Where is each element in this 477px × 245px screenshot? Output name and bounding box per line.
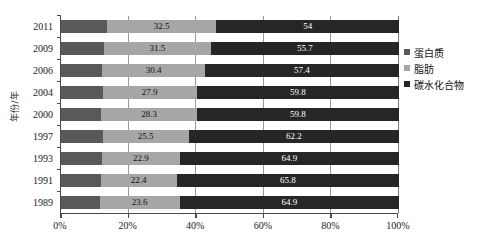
bar-row: 200427.959.8: [61, 86, 398, 99]
y-tick-label: 2009: [3, 42, 53, 55]
x-tick-mark: [195, 214, 197, 218]
y-tick-label: 2004: [3, 86, 53, 99]
bar-row: 199322.964.9: [61, 152, 398, 165]
data-label: 25.5: [138, 130, 154, 143]
x-tick-label: 100%: [378, 220, 418, 231]
bar-segment-carb[interactable]: 55.7: [211, 42, 399, 55]
bar-segment-protein[interactable]: [61, 86, 103, 99]
legend-swatch-icon: [404, 49, 410, 55]
x-tick-mark: [330, 214, 332, 218]
bar-segment-carb[interactable]: 54: [216, 20, 399, 33]
legend-label: 脂肪: [414, 61, 434, 76]
bar-segment-carb[interactable]: 59.8: [197, 108, 399, 121]
bar-segment-fat[interactable]: 25.5: [103, 130, 189, 143]
legend-item[interactable]: 脂肪: [404, 60, 477, 76]
plot-area: 201132.554200931.555.7200630.457.4200427…: [60, 16, 398, 214]
legend-label: 蛋白质: [414, 45, 444, 60]
x-axis: 0%20%40%60%80%100%: [60, 214, 398, 236]
y-tick-label: 1993: [3, 152, 53, 165]
bar-row: 200028.359.8: [61, 108, 398, 121]
data-label: 62.2: [286, 130, 302, 143]
data-label: 30.4: [146, 64, 162, 77]
x-tick-label: 40%: [175, 220, 215, 231]
x-tick-label: 60%: [243, 220, 283, 231]
bar-row: 200931.555.7: [61, 42, 398, 55]
y-tick-label: 1991: [3, 174, 53, 187]
bar-segment-carb[interactable]: 64.9: [180, 196, 399, 209]
data-label: 32.5: [154, 20, 170, 33]
x-tick-mark: [128, 214, 130, 218]
bar-segment-protein[interactable]: [61, 130, 103, 143]
y-tick-mark: [57, 37, 61, 39]
y-tick-mark: [57, 147, 61, 149]
data-label: 31.5: [150, 42, 166, 55]
stacked-bar[interactable]: 25.562.2: [61, 130, 399, 143]
bar-row: 199122.465.8: [61, 174, 398, 187]
stacked-bar[interactable]: 22.964.9: [61, 152, 399, 165]
y-tick-mark: [57, 191, 61, 193]
data-label: 27.9: [142, 86, 158, 99]
x-tick-label: 20%: [108, 220, 148, 231]
y-tick-label: 1989: [3, 196, 53, 209]
stacked-bar[interactable]: 28.359.8: [61, 108, 399, 121]
bar-row: 201132.554: [61, 20, 398, 33]
bar-segment-protein[interactable]: [61, 152, 102, 165]
x-tick-label: 0%: [40, 220, 80, 231]
y-tick-label: 1997: [3, 130, 53, 143]
bar-segment-fat[interactable]: 23.6: [100, 196, 180, 209]
bar-segment-protein[interactable]: [61, 196, 100, 209]
data-label: 64.9: [281, 196, 297, 209]
bar-segment-carb[interactable]: 64.9: [180, 152, 399, 165]
bar-segment-protein[interactable]: [61, 174, 101, 187]
stacked-bar[interactable]: 22.465.8: [61, 174, 399, 187]
stacked-bar[interactable]: 32.554: [61, 20, 399, 33]
bar-segment-protein[interactable]: [61, 64, 102, 77]
bar-row: 198923.664.9: [61, 196, 398, 209]
bar-segment-protein[interactable]: [61, 20, 107, 33]
bar-rows: 201132.554200931.555.7200630.457.4200427…: [61, 16, 398, 213]
chart-legend: 蛋白质脂肪碳水化合物: [404, 44, 477, 92]
bar-segment-fat[interactable]: 28.3: [101, 108, 197, 121]
bar-segment-fat[interactable]: 32.5: [107, 20, 217, 33]
data-label: 57.4: [294, 64, 310, 77]
y-tick-mark: [57, 59, 61, 61]
bar-segment-carb[interactable]: 65.8: [177, 174, 399, 187]
data-label: 59.8: [290, 108, 306, 121]
bar-segment-protein[interactable]: [61, 42, 104, 55]
bar-segment-fat[interactable]: 31.5: [104, 42, 210, 55]
y-tick-label: 2011: [3, 20, 53, 33]
y-tick-mark: [57, 15, 61, 17]
data-label: 23.6: [132, 196, 148, 209]
bar-row: 200630.457.4: [61, 64, 398, 77]
stacked-bar[interactable]: 30.457.4: [61, 64, 399, 77]
stacked-bar[interactable]: 23.664.9: [61, 196, 399, 209]
y-tick-mark: [57, 125, 61, 127]
x-tick-label: 80%: [310, 220, 350, 231]
data-label: 59.8: [290, 86, 306, 99]
data-label: 22.9: [133, 152, 149, 165]
data-label: 28.3: [141, 108, 157, 121]
data-label: 22.4: [131, 174, 147, 187]
bar-segment-fat[interactable]: 30.4: [102, 64, 205, 77]
bar-segment-carb[interactable]: 62.2: [189, 130, 399, 143]
legend-label: 碳水化合物: [414, 77, 464, 92]
legend-item[interactable]: 蛋白质: [404, 44, 477, 60]
stacked-bar[interactable]: 27.959.8: [61, 86, 399, 99]
y-tick-mark: [57, 169, 61, 171]
y-tick-label: 2006: [3, 64, 53, 77]
legend-swatch-icon: [404, 65, 410, 71]
legend-swatch-icon: [404, 81, 410, 87]
bar-segment-carb[interactable]: 57.4: [205, 64, 399, 77]
bar-segment-fat[interactable]: 22.4: [101, 174, 177, 187]
data-label: 65.8: [280, 174, 296, 187]
data-label: 64.9: [281, 152, 297, 165]
x-tick-mark: [397, 214, 399, 218]
legend-item[interactable]: 碳水化合物: [404, 76, 477, 92]
bar-segment-fat[interactable]: 27.9: [103, 86, 197, 99]
stacked-bar-chart: 年份/年 201132.554200931.555.7200630.457.42…: [0, 0, 477, 245]
bar-segment-fat[interactable]: 22.9: [102, 152, 179, 165]
bar-segment-carb[interactable]: 59.8: [197, 86, 399, 99]
bar-segment-protein[interactable]: [61, 108, 101, 121]
y-tick-label: 2000: [3, 108, 53, 121]
stacked-bar[interactable]: 31.555.7: [61, 42, 399, 55]
